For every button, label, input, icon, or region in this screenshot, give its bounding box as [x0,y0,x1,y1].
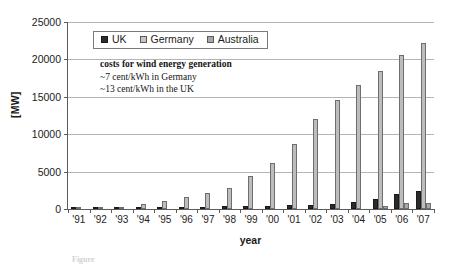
y-tick-label: 15000 [32,92,61,103]
y-tick-label: 20000 [32,54,61,65]
y-tick-label: 25000 [32,17,61,28]
legend-swatch-germany-icon [140,36,147,43]
x-tick-label: '93 [115,215,128,225]
x-tick-label: '92 [94,215,107,225]
x-tick-mark [240,209,241,213]
year-group [240,22,262,209]
y-tick-label: 5000 [38,166,61,177]
x-tick-label: '06 [395,215,408,225]
annotation-line-3: ~13 cent/kWh in the UK [100,83,232,96]
y-tick-label: 0 [55,204,61,215]
x-tick-label: '02 [309,215,322,225]
x-tick-mark [176,209,177,213]
x-tick-mark [219,209,220,213]
legend-item-australia: Australia [207,34,259,45]
x-tick-mark [305,209,306,213]
x-axis-title: year [67,234,434,246]
x-tick-mark [326,209,327,213]
bar-germany-92 [98,207,103,209]
year-group [412,22,434,209]
year-group [133,22,155,209]
annotation-line-1: costs for wind energy generation [100,58,232,71]
legend-item-germany: Germany [140,34,194,45]
legend-swatch-uk-icon [101,36,108,43]
x-tick-label: '95 [158,215,171,225]
x-tick-label: '94 [137,215,150,225]
x-tick-label: '01 [288,215,301,225]
figure-caption: Figure [72,255,372,268]
year-group [326,22,348,209]
bar-germany-99 [248,176,253,209]
bar-germany-95 [162,201,167,209]
bar-germany-03 [335,100,340,209]
bar-germany-91 [76,207,81,209]
legend-label-uk: UK [112,34,127,45]
x-tick-mark [111,209,112,213]
x-tick-label: '00 [266,215,279,225]
x-tick-mark [283,209,284,213]
x-tick-mark [154,209,155,213]
legend-label-germany: Germany [151,34,194,45]
x-tick-label: '98 [223,215,236,225]
year-group [348,22,370,209]
bar-germany-01 [292,144,297,209]
legend-item-uk: UK [101,34,127,45]
x-tick-label: '04 [352,215,365,225]
bar-germany-04 [356,85,361,209]
cost-annotation: costs for wind energy generation ~7 cent… [100,58,232,96]
legend: UK Germany Australia [93,31,268,49]
x-tick-mark [133,209,134,213]
bar-germany-02 [313,119,318,209]
bar-germany-97 [205,193,210,209]
x-tick-mark [68,209,69,213]
bar-australia-07 [426,203,431,209]
year-group [305,22,327,209]
x-tick-mark [197,209,198,213]
x-tick-label: '05 [374,215,387,225]
year-group [111,22,133,209]
legend-swatch-australia-icon [207,36,214,43]
bar-germany-07 [421,43,426,209]
year-group [283,22,305,209]
bar-germany-00 [270,163,275,209]
year-group [154,22,176,209]
year-group [68,22,90,209]
x-tick-label: '91 [72,215,85,225]
bar-germany-94 [141,204,146,209]
year-group [197,22,219,209]
year-group [219,22,241,209]
x-tick-mark [391,209,392,213]
plot-area: 0500010000150002000025000 '91'92'93'94'9… [67,22,434,210]
bar-australia-05 [383,206,388,209]
legend-label-australia: Australia [218,34,259,45]
x-tick-label: '97 [201,215,214,225]
y-tick-label: 10000 [32,129,61,140]
bar-germany-06 [399,55,404,209]
bar-germany-98 [227,188,232,209]
bar-germany-93 [119,207,124,209]
year-group [369,22,391,209]
x-tick-mark [262,209,263,213]
annotation-line-2: ~7 cent/kWh in Germany [100,71,232,84]
x-tick-mark [90,209,91,213]
figure-caption-label: Figure [72,255,95,264]
year-group [176,22,198,209]
x-tick-label: '96 [180,215,193,225]
x-tick-label: '07 [417,215,430,225]
x-tick-mark [369,209,370,213]
bars-layer [68,22,434,209]
x-tick-mark [434,209,435,213]
year-group [90,22,112,209]
bar-germany-05 [378,71,383,209]
bar-germany-96 [184,197,189,209]
x-tick-label: '03 [331,215,344,225]
year-group [391,22,413,209]
x-tick-mark [412,209,413,213]
x-tick-mark [348,209,349,213]
wind-energy-chart-figure: [MW] 0500010000150002000025000 '91'92'93… [0,0,452,268]
year-group [262,22,284,209]
x-tick-label: '99 [244,215,257,225]
bar-australia-06 [404,203,409,209]
y-axis-title: [MW] [9,92,21,118]
